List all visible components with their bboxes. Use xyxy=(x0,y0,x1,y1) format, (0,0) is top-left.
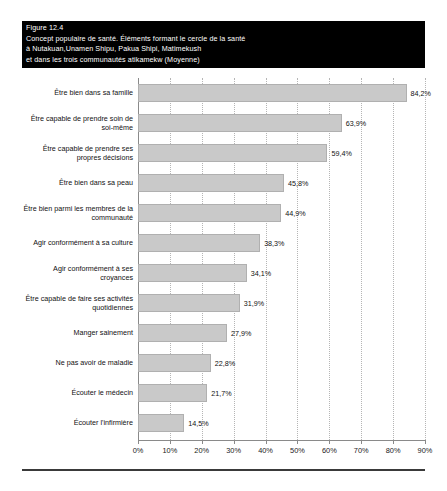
bar-value-label: 38,3% xyxy=(264,239,284,248)
x-tick-mark-80 xyxy=(393,440,394,444)
x-tick-mark-20 xyxy=(202,440,203,444)
x-tick-mark-60 xyxy=(329,440,330,444)
bar-row: Être bien dans sa famille84,2% xyxy=(0,78,447,108)
category-label: Écouter l'infirmière xyxy=(0,418,133,427)
bar-value-label: 59,4% xyxy=(331,149,351,158)
bar-value-label: 22,8% xyxy=(215,359,235,368)
bar-row: Écouter l'infirmière14,5% xyxy=(0,408,447,438)
x-tick-label: 70% xyxy=(354,446,369,455)
bar-row: Ne pas avoir de maladie22,8% xyxy=(0,348,447,378)
x-tick-label: 20% xyxy=(194,446,209,455)
bar-value-label: 84,2% xyxy=(411,89,431,98)
footer-rule xyxy=(22,469,425,471)
bar-row: Agir conformément à sa culture38,3% xyxy=(0,228,447,258)
x-tick-label: 60% xyxy=(322,446,337,455)
bar-row: Être capable de prendre sespropres décis… xyxy=(0,138,447,168)
bar-value-label: 21,7% xyxy=(211,389,231,398)
bar-row: Être bien dans sa peau45,8% xyxy=(0,168,447,198)
x-tick-label: 40% xyxy=(258,446,273,455)
bar xyxy=(138,84,407,102)
category-label: Être bien dans sa peau xyxy=(0,178,133,187)
bar xyxy=(138,114,342,132)
category-label: Ne pas avoir de maladie xyxy=(0,358,133,367)
category-label: Manger sainement xyxy=(0,328,133,337)
x-tick-mark-50 xyxy=(297,440,298,444)
category-label: Être capable de prendre soin desoi-même xyxy=(0,114,133,132)
figure-title-banner: Figure 12.4 Concept populaire de santé. … xyxy=(22,21,425,68)
x-tick-label: 0% xyxy=(133,446,144,455)
bar xyxy=(138,174,284,192)
category-label: Agir conformément à sa culture xyxy=(0,238,133,247)
bar-row: Écouter le médecin21,7% xyxy=(0,378,447,408)
category-label: Être bien dans sa famille xyxy=(0,88,133,97)
bar xyxy=(138,144,327,162)
bar-value-label: 31,9% xyxy=(244,299,264,308)
bar-value-label: 14,5% xyxy=(188,419,208,428)
x-tick-mark-90 xyxy=(425,440,426,444)
category-label: Être capable de faire ses activitésquoti… xyxy=(0,294,133,312)
x-tick-label: 90% xyxy=(418,446,433,455)
figure-title-line-2: à Nutakuan,Unamen Shipu, Pakua Shipi, Ma… xyxy=(26,44,425,55)
bar xyxy=(138,264,247,282)
category-label: Agir conformément à sescroyances xyxy=(0,264,133,282)
x-tick-label: 10% xyxy=(162,446,177,455)
figure-title-line-3: et dans les trois communautés atikamekw … xyxy=(26,55,425,66)
bar-row: Manger sainement27,9% xyxy=(0,318,447,348)
category-label: Écouter le médecin xyxy=(0,388,133,397)
x-tick-label: 30% xyxy=(226,446,241,455)
bar-row: Être bien parmi les membres de lacommuna… xyxy=(0,198,447,228)
bar-row: Agir conformément à sescroyances34,1% xyxy=(0,258,447,288)
bar-row: Être capable de faire ses activitésquoti… xyxy=(0,288,447,318)
category-label: Être capable de prendre sespropres décis… xyxy=(0,144,133,162)
bar-row: Être capable de prendre soin desoi-même6… xyxy=(0,108,447,138)
figure-container: Figure 12.4 Concept populaire de santé. … xyxy=(0,0,447,491)
bar xyxy=(138,204,281,222)
x-axis-line xyxy=(138,440,426,441)
bar xyxy=(138,384,207,402)
x-tick-mark-10 xyxy=(170,440,171,444)
bar xyxy=(138,414,184,432)
bar-value-label: 27,9% xyxy=(231,329,251,338)
figure-number: Figure 12.4 xyxy=(26,23,425,34)
bar xyxy=(138,324,227,342)
x-tick-label: 80% xyxy=(386,446,401,455)
x-tick-mark-30 xyxy=(234,440,235,444)
bar-chart: Être bien dans sa famille84,2%Être capab… xyxy=(0,74,447,456)
bar-value-label: 34,1% xyxy=(251,269,271,278)
x-tick-label: 50% xyxy=(290,446,305,455)
bar xyxy=(138,294,240,312)
x-tick-mark-0 xyxy=(138,440,139,444)
bar xyxy=(138,234,260,252)
x-tick-mark-70 xyxy=(361,440,362,444)
bar-value-label: 63,9% xyxy=(346,119,366,128)
bar xyxy=(138,354,211,372)
bar-value-label: 45,8% xyxy=(288,179,308,188)
figure-title-line-1: Concept populaire de santé. Éléments for… xyxy=(26,34,425,45)
bar-value-label: 44,9% xyxy=(285,209,305,218)
category-label: Être bien parmi les membres de lacommuna… xyxy=(0,204,133,222)
x-tick-mark-40 xyxy=(266,440,267,444)
